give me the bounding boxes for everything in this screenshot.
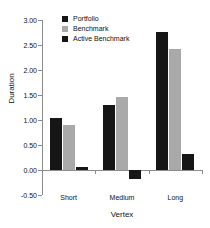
- plot-area: 3.002.502.001.501.000.500.00-0.50ShortMe…: [42, 20, 202, 195]
- y-axis-tick: [38, 95, 42, 96]
- legend-item: Benchmark: [62, 24, 129, 33]
- bar: [50, 118, 62, 171]
- bar: [129, 170, 141, 179]
- y-axis-tick: [38, 70, 42, 71]
- y-axis-tick: [38, 120, 42, 121]
- x-axis-label: Short: [60, 194, 77, 201]
- y-axis-label: 1.00: [23, 117, 37, 124]
- legend-swatch-icon: [62, 36, 68, 42]
- legend-swatch-icon: [62, 16, 68, 22]
- x-axis-tick: [202, 170, 203, 174]
- x-axis-tick: [95, 170, 96, 174]
- y-axis-label: 0.00: [23, 167, 37, 174]
- y-axis-label: 2.50: [23, 42, 37, 49]
- y-axis-tick: [38, 45, 42, 46]
- x-axis-label: Long: [168, 194, 184, 201]
- legend-item-label: Portfolio: [73, 15, 99, 22]
- y-axis-label: 2.00: [23, 67, 37, 74]
- bar: [156, 32, 168, 171]
- y-axis-tick: [38, 145, 42, 146]
- bar: [76, 167, 88, 171]
- y-axis-label: -0.50: [21, 192, 37, 199]
- legend-swatch-icon: [62, 26, 68, 32]
- y-axis-title: Duration: [7, 54, 16, 124]
- bar: [63, 125, 75, 170]
- chart-legend: PortfolioBenchmarkActive Benchmark: [62, 14, 129, 44]
- y-axis-tick: [38, 20, 42, 21]
- x-axis-label: Medium: [110, 194, 135, 201]
- y-axis-label: 3.00: [23, 17, 37, 24]
- y-axis-label: 1.50: [23, 92, 37, 99]
- bar-chart: Duration 3.002.502.001.501.000.500.00-0.…: [0, 0, 210, 228]
- y-axis-tick: [38, 195, 42, 196]
- x-axis-tick: [42, 170, 43, 174]
- legend-item: Active Benchmark: [62, 34, 129, 43]
- x-axis-title: Vertex: [42, 210, 202, 219]
- legend-item: Portfolio: [62, 14, 129, 23]
- legend-item-label: Benchmark: [73, 25, 108, 32]
- bar: [169, 49, 181, 171]
- y-axis-line: [42, 20, 43, 195]
- x-axis-tick: [149, 170, 150, 174]
- bar: [103, 105, 115, 170]
- bar: [116, 97, 128, 171]
- y-axis-label: 0.50: [23, 142, 37, 149]
- bar: [182, 154, 194, 171]
- legend-item-label: Active Benchmark: [73, 35, 129, 42]
- x-axis-line: [42, 170, 202, 171]
